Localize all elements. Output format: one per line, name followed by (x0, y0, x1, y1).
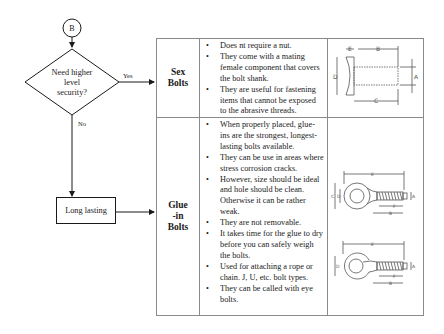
process-label: Long lasting (65, 206, 107, 215)
dim-label: F (393, 204, 396, 209)
bullet-item: When properly placed, glue-ins are the s… (220, 120, 324, 153)
table-row-glue-in-bolts: Glue -in Bolts When properly placed, glu… (157, 118, 423, 315)
bolt-name-line: Bolts (168, 222, 189, 233)
description-cell: Does nt require a nut. They come with a … (200, 39, 328, 117)
dim-label: A (414, 73, 419, 80)
bullet-item: Used for attaching a rope or chain. J, U… (220, 262, 324, 284)
decision-diamond: Need higher level security? (25, 49, 119, 115)
bolt-name-line: Glue (168, 200, 189, 211)
dim-label: C (331, 194, 334, 199)
bolt-name-line: -in (168, 211, 189, 222)
connector-b: B (63, 19, 81, 37)
table-row-sex-bolts: Sex Bolts Does nt require a nut. They co… (157, 39, 423, 118)
bullet-item: They are useful for fastening items that… (220, 85, 324, 118)
process-box-long-lasting: Long lasting (57, 198, 116, 224)
dim-label: A (412, 194, 416, 199)
bullet-item: They come with a mating female component… (220, 52, 324, 85)
dim-label: C (374, 97, 378, 104)
bullet-item: They can be called with eye bolts. (220, 284, 324, 306)
bullet-item: However, size should be ideal and hole s… (220, 175, 324, 219)
no-label: No (78, 120, 86, 127)
dim-label: D (336, 264, 340, 269)
bolt-types-table: Sex Bolts Does nt require a nut. They co… (156, 38, 424, 316)
decision-line-1: Need higher (52, 68, 93, 77)
eye-bolt-diagram: E C D A F B (331, 168, 421, 218)
yes-label: Yes (123, 72, 133, 79)
bullet-item: Does nt require a nut. (220, 41, 324, 52)
dim-label: B (389, 211, 392, 216)
decision-line-3: security? (57, 88, 87, 97)
bullet-list: Does nt require a nut. They come with a … (204, 41, 324, 117)
bullet-item: It takes time for the glue to dry before… (220, 229, 324, 262)
bolt-name-cell: Sex Bolts (157, 39, 200, 117)
diagram-cell: E C D A F B (328, 118, 423, 315)
sex-bolt-diagram: E B D A C (332, 45, 420, 109)
bullet-list: When properly placed, glue-ins are the s… (204, 120, 324, 305)
dim-label: E (371, 172, 374, 177)
description-cell: When properly placed, glue-ins are the s… (200, 118, 328, 315)
diagram-cell: E B D A C (328, 39, 423, 117)
bolt-name-line: Bolts (168, 78, 189, 89)
bolt-name-line: Sex (168, 67, 189, 78)
open-eye-bolt-diagram: E D A F B (331, 238, 421, 288)
dim-label: D (333, 73, 338, 80)
dim-label: F (393, 274, 396, 279)
dim-label: A (412, 264, 416, 269)
bullet-item: They are not removable. (220, 218, 324, 229)
dim-label: B (376, 45, 380, 52)
dim-label: E (371, 242, 374, 247)
dim-label: D (337, 194, 341, 199)
bullet-item: They can be use in areas where stress co… (220, 153, 324, 175)
dim-label: B (389, 281, 392, 286)
bolt-name-cell: Glue -in Bolts (157, 118, 200, 315)
connector-label: B (69, 24, 74, 33)
dim-label: E (348, 45, 352, 52)
decision-line-2: level (64, 78, 81, 87)
